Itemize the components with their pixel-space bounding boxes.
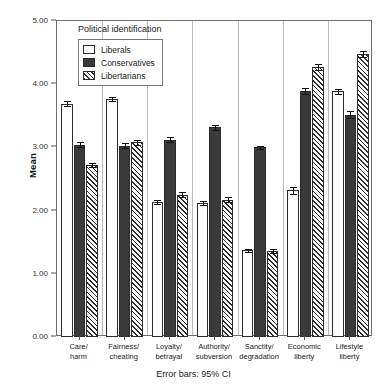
error-bar-cap-lower	[89, 167, 96, 168]
group-separator	[192, 21, 193, 335]
error-bar-cap-upper	[302, 88, 309, 89]
error-bar-cap-upper	[315, 64, 322, 65]
error-bar-cap-lower	[154, 204, 161, 205]
y-tick-label: 3.00	[14, 142, 48, 151]
error-bar-cap-lower	[64, 106, 71, 107]
error-bar-cap-upper	[200, 201, 207, 202]
error-bar-cap-lower	[109, 101, 116, 102]
bar-conservatives-2	[164, 140, 176, 337]
bar-liberals-6	[332, 91, 344, 337]
error-bar-cap-lower	[77, 147, 84, 148]
error-bar-cap-lower	[134, 145, 141, 146]
error-bar-cap-upper	[167, 137, 174, 138]
error-bar-cap-lower	[335, 94, 342, 95]
bar-liberals-2	[152, 202, 164, 337]
error-bar-cap-upper	[64, 101, 71, 102]
bar-libertarians-4	[267, 251, 279, 337]
x-tick-mark	[169, 336, 170, 340]
error-bar-cap-lower	[302, 94, 309, 95]
error-bar-cap-upper	[245, 249, 252, 250]
x-tick-mark	[259, 336, 260, 340]
bar-chart: Mean 0.001.002.003.004.005.00 Political …	[0, 0, 387, 391]
error-bar-cap-upper	[109, 97, 116, 98]
error-bar-cap-upper	[257, 146, 264, 147]
bar-liberals-1	[106, 99, 118, 337]
bar-conservatives-4	[254, 147, 266, 337]
error-bar-cap-upper	[335, 89, 342, 90]
x-tick-mark	[79, 336, 80, 340]
error-bar-cap-upper	[290, 187, 297, 188]
legend-label-conservatives: Conservatives	[101, 58, 155, 68]
error-bar-cap-lower	[122, 148, 129, 149]
error-bar-cap-lower	[245, 252, 252, 253]
error-bar-cap-lower	[360, 57, 367, 58]
error-bar-cap-upper	[225, 197, 232, 198]
error-bar-stem	[350, 111, 351, 119]
error-bar-cap-upper	[179, 192, 186, 193]
error-bar-cap-lower	[167, 142, 174, 143]
bar-liberals-4	[242, 250, 254, 337]
error-bar-cap-upper	[77, 142, 84, 143]
group-separator	[238, 21, 239, 335]
error-bar-cap-lower	[315, 70, 322, 71]
legend-swatch-conservatives	[83, 58, 95, 67]
error-bar-cap-upper	[212, 125, 219, 126]
bar-libertarians-3	[222, 200, 234, 337]
bar-libertarians-0	[86, 165, 98, 337]
bar-conservatives-6	[345, 115, 357, 337]
bar-conservatives-3	[209, 127, 221, 337]
legend: Liberals Conservatives Libertarians	[78, 39, 163, 86]
bar-libertarians-5	[312, 67, 324, 337]
error-bar-cap-lower	[212, 130, 219, 131]
bar-libertarians-6	[357, 54, 369, 337]
y-tick-label: 2.00	[14, 205, 48, 214]
bar-libertarians-2	[177, 195, 189, 337]
bar-liberals-3	[197, 203, 209, 337]
error-bar-cap-lower	[290, 194, 297, 195]
legend-label-libertarians: Libertarians	[101, 71, 145, 81]
bar-liberals-5	[287, 190, 299, 337]
group-separator	[283, 21, 284, 335]
y-tick-label: 4.00	[14, 79, 48, 88]
legend-item-liberals: Liberals	[83, 43, 155, 56]
x-tick-mark	[124, 336, 125, 340]
error-bar-cap-upper	[360, 51, 367, 52]
bar-libertarians-1	[131, 142, 143, 337]
y-tick-label: 0.00	[14, 332, 48, 341]
error-bar-cap-upper	[270, 249, 277, 250]
error-bar-note: Error bars: 95% CI	[0, 369, 387, 379]
x-tick-mark	[349, 336, 350, 340]
legend-label-liberals: Liberals	[101, 45, 131, 55]
error-bar-cap-lower	[179, 197, 186, 198]
legend-swatch-libertarians	[83, 71, 95, 80]
x-tick-mark	[304, 336, 305, 340]
bar-liberals-0	[61, 104, 73, 337]
error-bar-cap-lower	[257, 149, 264, 150]
bar-conservatives-1	[119, 146, 131, 337]
error-bar-cap-upper	[89, 163, 96, 164]
legend-swatch-liberals	[83, 45, 95, 54]
error-bar-cap-lower	[200, 205, 207, 206]
error-bar-cap-upper	[154, 200, 161, 201]
group-separator	[328, 21, 329, 335]
y-tick-label: 5.00	[14, 16, 48, 25]
bar-conservatives-0	[74, 145, 86, 337]
error-bar-cap-lower	[225, 202, 232, 203]
y-tick-label: 1.00	[14, 268, 48, 277]
legend-item-libertarians: Libertarians	[83, 69, 155, 82]
error-bar-cap-upper	[122, 143, 129, 144]
x-tick-mark	[214, 336, 215, 340]
legend-item-conservatives: Conservatives	[83, 56, 155, 69]
error-bar-cap-upper	[347, 111, 354, 112]
bar-conservatives-5	[300, 91, 312, 337]
x-category-label: Lifestyleliberty	[323, 342, 376, 361]
error-bar-cap-upper	[134, 140, 141, 141]
error-bar-cap-lower	[270, 253, 277, 254]
legend-title: Political identification	[78, 24, 162, 34]
error-bar-cap-lower	[347, 118, 354, 119]
